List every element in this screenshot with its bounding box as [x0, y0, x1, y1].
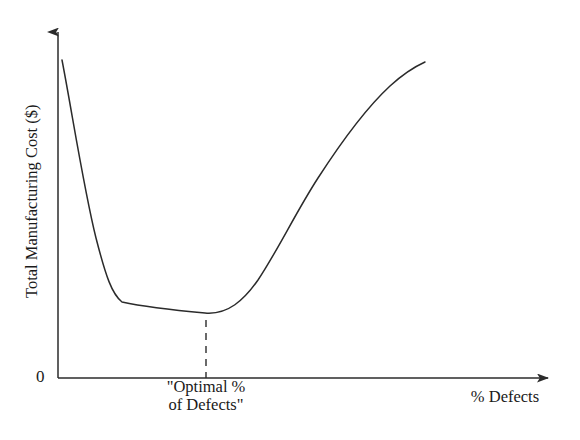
- origin-zero-label: 0: [36, 367, 45, 386]
- optimal-annotation-line-1: "Optimal %: [167, 377, 246, 396]
- cost-vs-defects-chart: Total Manufacturing Cost ($) % Defects 0…: [0, 0, 580, 440]
- chart-canvas: [0, 0, 580, 440]
- x-axis-label: % Defects: [452, 388, 558, 406]
- optimal-percent-annotation: "Optimal %of Defects": [141, 378, 271, 415]
- cost-curve: [62, 60, 425, 313]
- optimal-annotation-line-2: of Defects": [141, 396, 271, 414]
- y-axis-label: Total Manufacturing Cost ($): [23, 91, 41, 311]
